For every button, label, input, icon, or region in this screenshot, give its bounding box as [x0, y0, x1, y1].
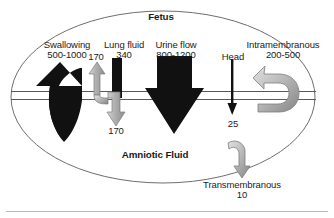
head-value: 25 [218, 119, 248, 129]
intramembranous-arrow [253, 66, 299, 112]
lung-fluid-connector [94, 95, 108, 104]
lung-fluid-down-value: 170 [102, 126, 130, 136]
lung-fluid-up-arrow [89, 62, 105, 95]
urine-flow-label: Urine flow 800-1200 [145, 40, 207, 61]
intramembranous-value: 200-500 [232, 50, 334, 60]
intramembranous-label: Intramembranous 200-500 [232, 40, 334, 61]
transmembranous-label: Transmembranous 10 [185, 180, 299, 201]
fetus-label: Fetus [131, 12, 191, 23]
urine-flow-arrow [145, 56, 204, 134]
swallowing-arrow-tail [49, 86, 82, 142]
amniotic-fluid-label: Amniotic Fluid [95, 150, 215, 161]
head-arrow [228, 59, 238, 115]
urine-flow-value: 800-1200 [145, 50, 207, 60]
transmembranous-value: 10 [185, 190, 299, 200]
bottom-divider [6, 211, 328, 212]
transmembranous-arrow [228, 141, 250, 178]
lung-fluid-down-arrow [107, 92, 125, 126]
amniotic-fluid-diagram: Fetus Amniotic Fluid Swallowing 500-1000… [0, 0, 334, 218]
